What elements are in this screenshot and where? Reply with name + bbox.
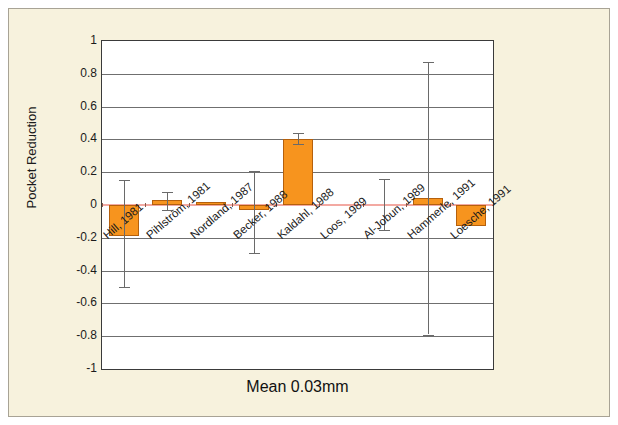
gridline [102,336,493,337]
y-axis-tick-labels: 10.80.60.40.20-0.2-0.4-0.6-0.8-1 [55,40,97,370]
y-axis-tick-label: -0.8 [76,329,97,341]
gridline [102,303,493,304]
x-axis-tick [145,203,146,207]
x-axis-tick [102,203,103,207]
y-axis-tick-label: 0.4 [80,132,97,144]
y-axis-title: Pocket Reduction [24,63,39,253]
y-axis-tick-label: 1 [90,34,97,46]
y-axis-tick-label: 0 [90,198,97,210]
gridline [102,107,493,108]
gridline [102,238,493,239]
y-axis-tick-label: -1 [86,362,97,374]
error-bar-line [167,192,168,210]
error-bar-cap-upper [162,192,173,193]
gridline [102,74,493,75]
error-bar-cap-lower [293,144,304,145]
error-bar-cap-lower [423,335,434,336]
y-axis-tick-label: -0.6 [76,296,97,308]
error-bar-cap-upper [249,171,260,172]
error-bar-cap-upper [379,179,390,180]
error-bar-cap-upper [119,180,130,181]
y-axis-tick-label: 0.2 [80,165,97,177]
figure-root: Pocket Reduction 10.80.60.40.20-0.2-0.4-… [0,0,618,425]
y-axis-tick-label: -0.2 [76,231,97,243]
error-bar-line [428,62,429,334]
error-bar-cap-lower [119,287,130,288]
y-axis-tick-label: 0.6 [80,100,97,112]
chart-footer-label: Mean 0.03mm [101,378,494,396]
error-bar-cap-lower [249,253,260,254]
gridline [102,271,493,272]
error-bar-cap-upper [293,133,304,134]
error-bar-cap-upper [423,62,434,63]
error-bar-line [298,133,299,144]
y-axis-tick-label: 0.8 [80,67,97,79]
error-bar-line [124,180,125,287]
y-axis-tick-label: -0.4 [76,264,97,276]
